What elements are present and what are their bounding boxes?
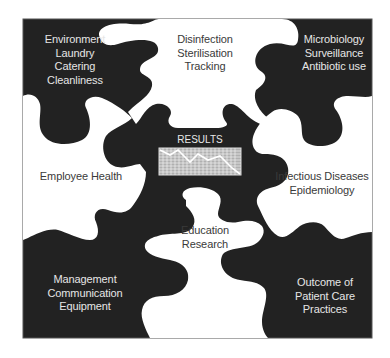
label-disinfection: Disinfection Sterilisation Tracking <box>155 33 255 74</box>
line-chart-grid-icon <box>159 148 241 175</box>
label-education: Education Research <box>165 224 245 251</box>
label-microbiology: Microbiology Surveillance Antibiotic use <box>296 33 372 74</box>
label-environment: Environment Laundry Catering Cleanliness <box>26 33 124 87</box>
puzzle-diagram: Environment Laundry Catering Cleanliness… <box>0 0 390 358</box>
label-infectious-diseases: Infectious Diseases Epidemiology <box>272 170 372 197</box>
label-employee-health: Employee Health <box>26 170 136 184</box>
results-title: RESULTS <box>160 134 240 145</box>
label-outcome: Outcome of Patient Care Practices <box>285 276 365 317</box>
label-management: Management Communication Equipment <box>40 273 130 314</box>
